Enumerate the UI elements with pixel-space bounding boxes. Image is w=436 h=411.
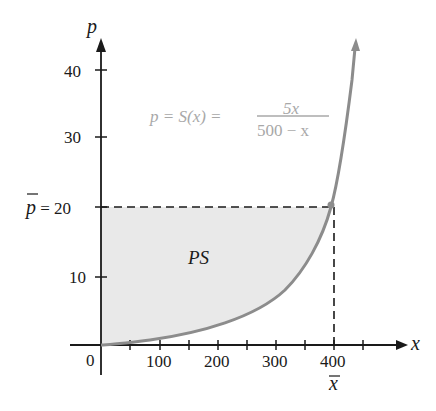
origin-label: 0: [86, 351, 95, 370]
formula-numerator: 5x: [283, 99, 300, 118]
x-tick-label-100: 100: [146, 352, 172, 371]
x-bar-label: x: [328, 372, 338, 394]
y-axis-label: p: [85, 15, 97, 38]
y-axis-arrow-icon: [96, 38, 106, 52]
p-bar-label: p = 20: [24, 196, 71, 219]
x-tick-label-400: 400: [320, 352, 346, 371]
ps-label: PS: [187, 247, 210, 268]
formula-denominator: 500 − x: [257, 121, 310, 140]
curve-arrow-icon: [351, 38, 360, 51]
supply-curve-chart: p x 0 10 30 40 p = 20 100 200 300 400 x …: [0, 0, 436, 411]
y-tick-label-30: 30: [64, 128, 81, 147]
equilibrium-point: [328, 202, 335, 209]
x-axis-arrow-icon: [396, 340, 408, 350]
y-tick-label-40: 40: [64, 62, 81, 81]
x-tick-label-200: 200: [204, 352, 230, 371]
formula-left: p = S(x) =: [149, 107, 222, 126]
x-tick-label-300: 300: [262, 352, 288, 371]
x-axis-label: x: [410, 332, 420, 354]
y-tick-label-10: 10: [69, 268, 86, 287]
